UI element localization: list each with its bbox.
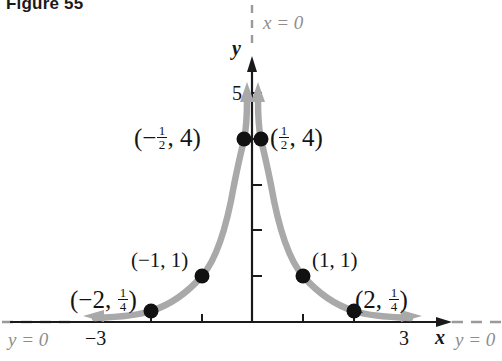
point-1-1 xyxy=(296,269,311,284)
point-neg-1-1 xyxy=(195,269,210,284)
point-label-open: (− xyxy=(134,124,156,151)
point-label-open: ( xyxy=(270,124,278,151)
point-neg-2-quarter xyxy=(144,304,159,319)
point-half-4 xyxy=(254,132,269,147)
point-label-close: ) xyxy=(399,286,407,313)
point-label-neg-2-quarter: (−2, 14) xyxy=(70,286,137,314)
point-label-neg-1-1: (−1, 1) xyxy=(131,250,188,271)
figure-container: Figure 55 xyxy=(0,0,502,361)
point-label-close: , 4) xyxy=(289,124,322,151)
fraction-one-quarter: 14 xyxy=(389,286,399,314)
fraction-one-half: 12 xyxy=(279,124,289,152)
point-neg-half-4 xyxy=(237,132,252,147)
x-axis-label: x xyxy=(435,327,445,347)
point-label-half-4: (12, 4) xyxy=(270,124,323,152)
x-tick-label-neg-3: −3 xyxy=(85,328,106,348)
fraction-one-half: 12 xyxy=(157,124,167,152)
point-label-open: (2, xyxy=(355,286,388,313)
point-label-neg-half-4: (−12, 4) xyxy=(134,124,201,152)
horizontal-asymptote-label-right: y = 0 xyxy=(455,330,495,349)
point-label-open: (−2, xyxy=(70,286,117,313)
x-tick-label-3: 3 xyxy=(399,328,409,348)
point-label-1-1: (1, 1) xyxy=(312,250,358,271)
y-tick-label-5: 5 xyxy=(232,83,242,103)
y-axis-label: y xyxy=(232,38,241,58)
fraction-one-quarter: 14 xyxy=(118,286,128,314)
y-axis-arrowhead xyxy=(247,56,257,72)
vertical-asymptote-label: x = 0 xyxy=(263,13,303,32)
point-label-2-quarter: (2, 14) xyxy=(355,286,408,314)
point-label-close: , 4) xyxy=(168,124,201,151)
point-label-close: ) xyxy=(129,286,137,313)
horizontal-asymptote-label-left: y = 0 xyxy=(8,330,48,349)
